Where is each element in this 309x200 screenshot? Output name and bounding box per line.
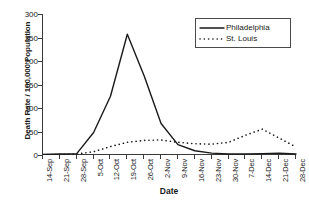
y-axis-tick-label: 250 bbox=[14, 33, 38, 42]
x-axis-tick-label: 14-Sep bbox=[45, 159, 54, 182]
legend-swatch-solid bbox=[199, 23, 225, 33]
y-axis-tick-label: 300 bbox=[14, 10, 38, 19]
x-axis-tick-label: 26-Oct bbox=[146, 159, 155, 180]
x-axis-tick-label: 2-Nov bbox=[163, 159, 172, 178]
x-axis-tick-label: 16-Nov bbox=[197, 159, 206, 182]
chart-container: Death Rate / 100,000 Population 05010015… bbox=[0, 0, 309, 200]
x-axis-tick-label: 28-Dec bbox=[298, 159, 307, 182]
y-axis-tick-label: 150 bbox=[14, 80, 38, 89]
x-axis-tick-label: 7-Dec bbox=[247, 159, 256, 178]
x-axis-tick-labels: 14-Sep21-Sep28-Sep5-Oct12-Oct19-Oct26-Oc… bbox=[42, 159, 296, 189]
y-axis-tick-label: 200 bbox=[14, 57, 38, 66]
x-axis-tick-label: 19-Oct bbox=[129, 159, 138, 180]
legend-item: St. Louis bbox=[199, 33, 286, 44]
x-axis-title: Date bbox=[42, 186, 296, 196]
series-line-st-louis bbox=[43, 129, 296, 154]
legend-label: Philadelphia bbox=[226, 23, 270, 32]
legend-swatch-dotted bbox=[199, 34, 225, 44]
legend-label: St. Louis bbox=[226, 34, 257, 43]
x-axis-tick-label: 12-Oct bbox=[112, 159, 121, 180]
chart-legend: PhiladelphiaSt. Louis bbox=[195, 18, 291, 48]
series-line-philadelphia bbox=[43, 34, 296, 154]
x-axis-tick-label: 5-Oct bbox=[96, 159, 105, 176]
y-axis-tick-label: 50 bbox=[14, 127, 38, 136]
legend-item: Philadelphia bbox=[199, 22, 286, 33]
y-axis-tick-label: 100 bbox=[14, 104, 38, 113]
x-axis-tick-label: 21-Sep bbox=[62, 159, 71, 182]
x-axis-tick-label: 28-Sep bbox=[79, 159, 88, 182]
y-axis-tick-label: 0 bbox=[14, 151, 38, 160]
x-axis-tick-label: 14-Dec bbox=[264, 159, 273, 182]
x-axis-tick-label: 23-Nov bbox=[214, 159, 223, 182]
x-axis-tick-label: 21-Dec bbox=[281, 159, 290, 182]
y-axis-tick-labels: 050100150200250300 bbox=[14, 14, 38, 155]
x-axis-tick-label: 9-Nov bbox=[180, 159, 189, 178]
x-axis-tick-label: 30-Nov bbox=[231, 159, 240, 182]
